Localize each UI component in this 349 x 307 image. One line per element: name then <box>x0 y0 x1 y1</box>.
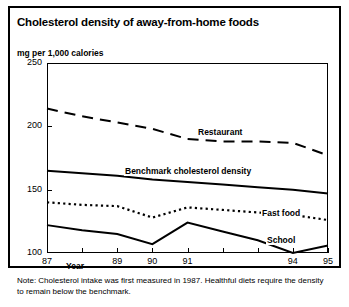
series-label-restaurant: Restaurant <box>197 127 243 137</box>
x-tick-92 <box>223 248 224 253</box>
y-tick-200 <box>47 126 52 127</box>
series-label-fast-food: Fast food <box>261 208 301 218</box>
plot-area <box>47 63 328 253</box>
x-tick-label-94: 94 <box>288 256 298 266</box>
x-tick-94 <box>293 248 294 253</box>
x-tick-95 <box>328 248 329 253</box>
chart-lines <box>47 63 328 253</box>
chart-title: Cholesterol density of away-from-home fo… <box>17 16 259 28</box>
y-tick-150 <box>47 190 52 191</box>
y-tick-label-200: 200 <box>2 120 42 130</box>
series-line-restaurant <box>47 109 328 156</box>
chart-figure: Cholesterol density of away-from-home fo… <box>0 0 349 307</box>
x-tick-90 <box>152 248 153 253</box>
y-tick-label-250: 250 <box>2 57 42 67</box>
x-tick-93 <box>258 248 259 253</box>
x-tick-label-95: 95 <box>323 256 333 266</box>
series-label-school: School <box>266 235 296 245</box>
x-tick-label-89: 89 <box>112 256 122 266</box>
y-tick-label-150: 150 <box>2 184 42 194</box>
x-tick-88 <box>82 248 83 253</box>
x-tick-label-91: 91 <box>182 256 192 266</box>
x-tick-label-90: 90 <box>147 256 157 266</box>
series-label-benchmark: Benchmark cholesterol density <box>124 166 252 176</box>
y-tick-label-100: 100 <box>2 247 42 257</box>
x-axis-title: Year <box>66 261 84 271</box>
chart-note: Note: Cholesterol intake was first measu… <box>17 275 327 297</box>
x-tick-label-87: 87 <box>42 256 52 266</box>
x-tick-91 <box>188 248 189 253</box>
x-tick-89 <box>117 248 118 253</box>
